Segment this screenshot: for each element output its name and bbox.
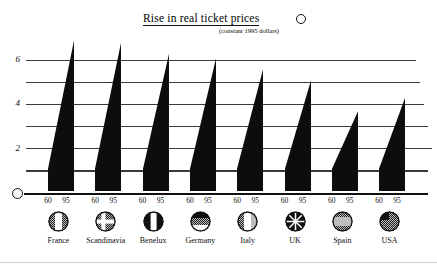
x-year-label-spain-start: 60	[324, 196, 340, 205]
page-divider	[0, 262, 437, 263]
circle-marker-icon	[296, 14, 306, 24]
wedge-scandinavia	[91, 36, 131, 193]
x-year-label-benelux-start: 60	[135, 196, 151, 205]
flag-germany-icon	[190, 211, 211, 232]
x-year-label-scandinavia-end: 95	[105, 196, 121, 205]
y-tick-label-2: 2	[6, 143, 20, 153]
country-label-uk: UK	[272, 236, 319, 245]
country-label-germany: Germany	[177, 236, 224, 245]
x-year-label-italy-start: 60	[229, 196, 245, 205]
flag-usa-icon	[379, 211, 400, 232]
flag-spain-icon	[332, 211, 353, 232]
wedge-usa	[375, 36, 415, 193]
x-year-label-germany-end: 95	[200, 196, 216, 205]
x-year-label-germany-start: 60	[182, 196, 198, 205]
flag-uk-icon	[285, 211, 306, 232]
x-year-label-usa-end: 95	[389, 196, 405, 205]
chart-title: Rise in real ticket prices	[143, 12, 259, 26]
country-label-france: France	[35, 236, 82, 245]
x-year-label-usa-start: 60	[371, 196, 387, 205]
x-year-label-france-end: 95	[58, 196, 74, 205]
wedge-france	[44, 36, 84, 193]
chart-subtitle: (constant 1995 dollars)	[143, 27, 279, 34]
x-axis-baseline	[24, 193, 428, 195]
wedge-germany	[186, 36, 226, 193]
country-label-scandinavia: Scandinavia	[82, 236, 129, 245]
x-year-label-france-start: 60	[40, 196, 56, 205]
flag-scandinavia-icon	[95, 211, 116, 232]
x-year-label-italy-end: 95	[247, 196, 263, 205]
x-year-label-benelux-end: 95	[153, 196, 169, 205]
y-tick-label-4: 4	[6, 98, 20, 108]
chart-canvas: Rise in real ticket prices (constant 199…	[0, 0, 437, 270]
x-year-label-scandinavia-start: 60	[87, 196, 103, 205]
country-label-italy: Italy	[224, 236, 271, 245]
y-tick-label-6: 6	[6, 54, 20, 64]
wedge-benelux	[139, 36, 179, 193]
x-year-label-spain-end: 95	[342, 196, 358, 205]
flag-benelux-icon	[143, 211, 164, 232]
x-year-label-uk-start: 60	[277, 196, 293, 205]
country-label-benelux: Benelux	[130, 236, 177, 245]
gridline-2	[26, 148, 432, 149]
circle-origin-icon	[12, 188, 23, 199]
flag-italy-icon	[237, 211, 258, 232]
wedge-spain	[328, 36, 368, 193]
wedge-uk	[281, 36, 321, 193]
plot-area: 246	[0, 38, 437, 198]
wedge-italy	[233, 36, 273, 193]
x-year-label-uk-end: 95	[295, 196, 311, 205]
country-label-spain: Spain	[319, 236, 366, 245]
country-label-usa: USA	[366, 236, 413, 245]
flag-france-icon	[48, 211, 69, 232]
